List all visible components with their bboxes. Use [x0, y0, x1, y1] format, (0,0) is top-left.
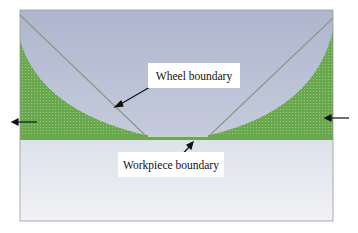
workpiece-boundary-label: Workpiece boundary — [118, 152, 224, 177]
diagram-canvas — [0, 0, 358, 233]
wheel-boundary-label: Wheel boundary — [148, 63, 240, 88]
grinding-simulation-figure: Wheel boundary Workpiece boundary — [0, 0, 358, 233]
right-motion-arrow-icon — [325, 115, 349, 121]
